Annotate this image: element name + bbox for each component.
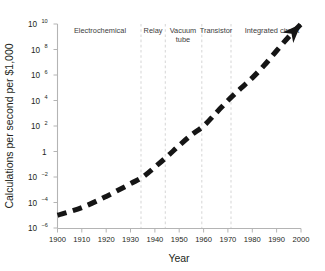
y-tick-exp-1e8: 8 (45, 43, 48, 49)
x-tick-label-2000: 2000 (293, 235, 310, 244)
x-tick-label-1980: 1980 (244, 235, 261, 244)
x-axis-title: Year (168, 252, 190, 264)
x-tick-label-1970: 1970 (219, 235, 236, 244)
y-tick-base-1e8: 10 (31, 46, 41, 55)
computing-power-line-chart: Electrochemical Relay Vacuum tube Transi… (0, 0, 325, 271)
x-tick-label-1960: 1960 (195, 235, 212, 244)
y-tick-base-1e2: 10 (31, 122, 41, 131)
x-tick-labels: 1900 1910 1920 1930 1940 1950 1960 1970 … (49, 235, 309, 244)
y-tick-base-1e-2: 10 (28, 173, 38, 182)
y-axis-title: Calculations per second per $1,000 (3, 43, 15, 208)
y-tick-exp-1e-2: −2 (42, 171, 48, 177)
x-tick-label-1910: 1910 (73, 235, 90, 244)
y-tick-base-1: 1 (42, 148, 47, 157)
y-tick-exp-1e4: 4 (45, 94, 48, 100)
y-tick-base-1e10: 10 (28, 20, 38, 29)
era-label-relay: Relay (144, 26, 163, 35)
era-label-vacuum-tube-line2: tube (176, 35, 190, 44)
x-tick-label-1920: 1920 (98, 235, 115, 244)
x-tick-label-1950: 1950 (171, 235, 188, 244)
x-tick-label-1990: 1990 (268, 235, 285, 244)
x-tick-label-1940: 1940 (146, 235, 163, 244)
x-tick-label-1900: 1900 (49, 235, 66, 244)
era-label-vacuum-tube-line1: Vacuum (170, 26, 197, 35)
y-tick-base-1e4: 10 (31, 97, 41, 106)
y-tick-exp-1e2: 2 (45, 120, 48, 126)
era-label-transistor: Transistor (200, 26, 233, 35)
y-tick-label-1: 1 (42, 148, 47, 157)
era-label-electrochemical: Electrochemical (74, 26, 127, 35)
y-tick-base-1e-4: 10 (28, 199, 38, 208)
y-tick-base-1e-6: 10 (28, 224, 38, 233)
y-tick-exp-1e10: 10 (42, 18, 48, 24)
x-tick-label-1930: 1930 (122, 235, 139, 244)
y-tick-exp-1e-4: −4 (42, 196, 48, 202)
chart-container: Electrochemical Relay Vacuum tube Transi… (0, 0, 325, 271)
y-tick-base-1e6: 10 (31, 71, 41, 80)
y-tick-exp-1e-6: −6 (42, 222, 48, 228)
y-tick-exp-1e6: 6 (45, 69, 48, 75)
